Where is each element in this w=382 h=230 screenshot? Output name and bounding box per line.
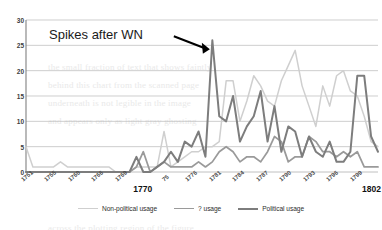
annotation-arrow-head xyxy=(202,43,210,54)
legend-item[interactable]: Non-political usage xyxy=(78,205,157,212)
y-axis-tick-label: 5 xyxy=(20,143,24,150)
y-axis-tick-label: 15 xyxy=(17,93,24,100)
legend-swatch-line-icon xyxy=(174,208,194,209)
legend-swatch-line-icon xyxy=(238,208,258,210)
annotation-arrow-shaft xyxy=(174,36,205,48)
legend-label: Political usage xyxy=(262,205,304,212)
x-axis-tick-label: 1802 xyxy=(362,184,381,194)
y-axis-tick-label: 25 xyxy=(17,42,24,49)
legend-label: Non-political usage xyxy=(102,205,157,212)
chart-legend: Non-political usage? usagePolitical usag… xyxy=(0,205,382,212)
y-axis-tick-label: 20 xyxy=(17,67,24,74)
x-axis-tick-label: 75 xyxy=(161,174,170,183)
y-axis-tick-label: 30 xyxy=(17,17,24,24)
x-axis: 1751175517601766176917707517761781178417… xyxy=(0,176,382,202)
annotation-spikes-after-wn: Spikes after WN xyxy=(49,27,143,42)
x-axis-tick-label: 1770 xyxy=(133,184,152,194)
legend-item[interactable]: ? usage xyxy=(174,205,221,212)
legend-label: ? usage xyxy=(198,205,221,212)
legend-swatch-line-icon xyxy=(78,208,98,209)
series-line-political-usage xyxy=(26,40,378,172)
chart-container: the small fraction of text that shows fa… xyxy=(0,0,382,230)
legend-item[interactable]: Political usage xyxy=(238,205,304,212)
y-axis-tick-label: 10 xyxy=(17,118,24,125)
